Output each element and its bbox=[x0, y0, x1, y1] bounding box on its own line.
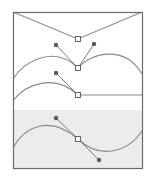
direction-point-icon bbox=[97, 158, 101, 162]
anchor-point-icon bbox=[76, 93, 81, 98]
direction-line bbox=[56, 45, 78, 68]
bezier-path bbox=[13, 12, 142, 39]
anchor-point-icon bbox=[76, 66, 81, 71]
corner-point-straight-example bbox=[13, 12, 142, 42]
direction-point-icon bbox=[54, 43, 58, 47]
anchor-point-icon bbox=[76, 137, 81, 142]
anchor-point-icon bbox=[76, 37, 81, 42]
direction-point-icon bbox=[54, 71, 58, 75]
direction-point-icon bbox=[54, 116, 58, 120]
anchor-types-diagram bbox=[0, 0, 153, 187]
direction-line bbox=[78, 44, 94, 68]
curve-to-straight-example bbox=[13, 71, 142, 101]
bezier-path bbox=[13, 83, 142, 101]
direction-point-icon bbox=[92, 42, 96, 46]
corner-point-curves-example bbox=[13, 42, 142, 79]
